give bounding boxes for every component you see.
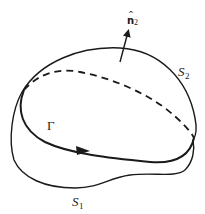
surface-s2-subscript: 2 — [185, 71, 190, 81]
normal-vector-subscript: 2 — [134, 18, 138, 27]
surface-s2-label: S — [178, 64, 185, 79]
normal-vector-arrow — [120, 32, 128, 62]
surface-diagram: ^ n 2 S 2 S 1 Γ — [0, 0, 205, 214]
surface-s1-subscript: 1 — [79, 201, 84, 211]
boundary-gamma-label: Γ — [47, 118, 55, 133]
surface-s1-outline — [11, 92, 194, 188]
surface-s1-label: S — [72, 194, 79, 209]
